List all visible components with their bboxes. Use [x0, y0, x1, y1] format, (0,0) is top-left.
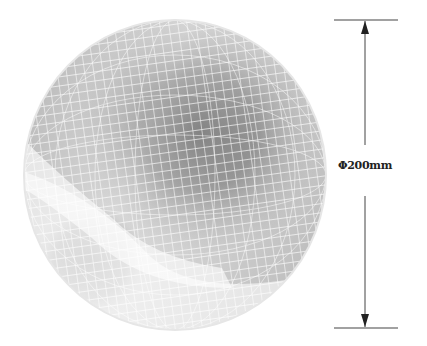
dimension-indicator: [0, 0, 427, 346]
diameter-label: Φ200mm: [333, 159, 397, 172]
